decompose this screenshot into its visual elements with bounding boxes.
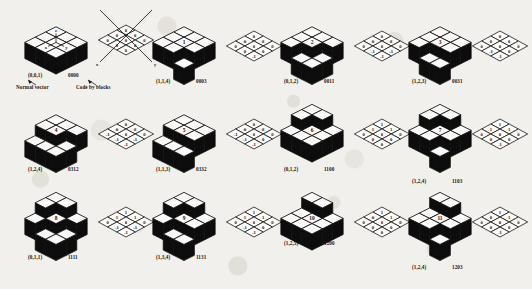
block-stack-6: 6 [280, 102, 354, 176]
code-label-11: 1203 [452, 264, 463, 270]
code-grid-2: 00000-10-1-1 [352, 24, 416, 86]
normal-vector-description: Normal vector [16, 84, 49, 90]
block-stack-9: 9 [152, 190, 226, 264]
grid-panel-11: 11000000-1 [470, 200, 532, 262]
cube-number-2: 2 [311, 39, 314, 45]
code-label-1: 0003 [196, 78, 207, 84]
cube-number-1: 1 [183, 39, 186, 45]
normal-vector-label-5: (1,1,3) [156, 166, 170, 172]
grid-panel-8: 11010-10-1-1 [96, 200, 160, 262]
code-label-7: 1103 [452, 178, 462, 184]
stack-panel-10: 10 [280, 190, 354, 264]
code-grid-5: 000000-1-1-1 [224, 112, 288, 174]
code-grid-8: 11010-10-1-1 [96, 200, 160, 262]
code-grid-10: 110000000 [352, 200, 416, 262]
grid-panel-9: 1101000-1-1 [224, 200, 288, 262]
inset-axis-label-z: z [55, 28, 57, 33]
grid-panel-3: 0000000-1-1 [470, 24, 532, 86]
stack-panel-9: 9 [152, 190, 226, 264]
block-stack-2: 2 [280, 14, 354, 88]
normal-vector-label-3: (1,2,3) [412, 78, 426, 84]
code-label-4: 0312 [68, 166, 79, 172]
cube-number-9: 9 [183, 215, 186, 221]
block-stack-8: 8 [24, 190, 98, 264]
stack-panel-2: 2 [280, 14, 354, 88]
normal-vector-label-6: (0,1,2) [284, 166, 298, 172]
cube-number-11: 11 [437, 215, 442, 221]
grid-panel-5: 000000-1-1-1 [224, 112, 288, 174]
axis-label-x: x [96, 62, 99, 67]
code-grid-3: 0000000-1-1 [470, 24, 532, 86]
grid-panel-1: 00000000-1 [224, 24, 288, 86]
code-by-blocks-description: Code by blocks [76, 84, 111, 90]
code-label-5: 0332 [196, 166, 207, 172]
cube-number-8: 8 [55, 215, 58, 221]
code-label-9: 1131 [196, 254, 206, 260]
grid-panel-6: 110100000 [352, 112, 416, 174]
code-grid-7: 11010000-1 [470, 112, 532, 174]
normal-vector-label-7: (1,2,4) [412, 178, 426, 184]
code-label-6: 1100 [324, 166, 334, 172]
code-label-10: 1200 [324, 240, 335, 246]
code-grid-11: 11000000-1 [470, 200, 532, 262]
normal-vector-label-11: (1,2,4) [412, 264, 426, 270]
code-label-3: 0031 [452, 78, 463, 84]
block-stack-1: 1 [152, 14, 226, 88]
stack-panel-8: 8 [24, 190, 98, 264]
stack-panel-1: 1 [152, 14, 226, 88]
code-grid-6: 110100000 [352, 112, 416, 174]
normal-vector-label-8: (0,1,1) [28, 254, 42, 260]
stack-panel-4: 4 [24, 102, 98, 176]
grid-panel-2: 00000-10-1-1 [352, 24, 416, 86]
cube-number-7: 7 [439, 127, 442, 133]
stack-panel-5: 5 [152, 102, 226, 176]
code-grid-0: 000000000xy [96, 18, 160, 80]
stack-panel-6: 6 [280, 102, 354, 176]
grid-panel-7: 11010000-1 [470, 112, 532, 174]
normal-vector-label-1: (1,1,4) [156, 78, 170, 84]
code-grid-1: 00000000-1 [224, 24, 288, 86]
normal-vector-label-10: (1,2,5) [284, 240, 298, 246]
code-label-8: 1111 [68, 254, 78, 260]
grid-panel-0: 000000000xy [96, 18, 160, 80]
cube-number-6: 6 [311, 127, 314, 133]
normal-vector-label-2: (0,1,2) [284, 78, 298, 84]
grid-panel-4: 00000-1-1-1-1 [96, 112, 160, 174]
code-label-2: 0011 [324, 78, 334, 84]
block-stack-4: 4 [24, 102, 98, 176]
cube-number-5: 5 [183, 127, 186, 133]
block-stack-10: 10 [280, 190, 354, 264]
block-stack-5: 5 [152, 102, 226, 176]
normal-vector-label-9: (1,3,4) [156, 254, 170, 260]
cube-number-4: 4 [55, 127, 58, 133]
code-grid-9: 1101000-1-1 [224, 200, 288, 262]
normal-vector-label-4: (1,2,4) [28, 166, 42, 172]
grid-panel-10: 110000000 [352, 200, 416, 262]
cube-number-3: 3 [439, 39, 442, 45]
code-grid-4: 00000-1-1-1-1 [96, 112, 160, 174]
cube-number-10: 10 [309, 215, 315, 221]
